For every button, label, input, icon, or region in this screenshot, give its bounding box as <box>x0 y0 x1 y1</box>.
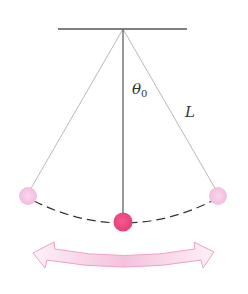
angle-label: θ0 <box>132 80 147 99</box>
string-right <box>123 29 216 190</box>
string-left <box>30 29 123 190</box>
length-label: L <box>184 103 195 121</box>
motion-arrow-icon <box>33 242 214 268</box>
bob-right <box>209 187 227 205</box>
pendulum-diagram: θ0 L <box>0 0 248 294</box>
bob-center <box>114 213 133 232</box>
bob-left <box>19 187 37 205</box>
